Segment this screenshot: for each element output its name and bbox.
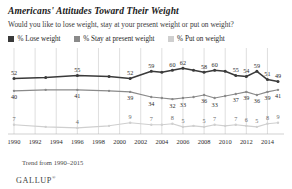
data-point bbox=[213, 124, 215, 126]
data-point bbox=[277, 80, 280, 83]
chart-plot-area: 5255525960625860555459514940413934323336… bbox=[8, 48, 284, 136]
data-point bbox=[213, 97, 215, 99]
data-point bbox=[129, 122, 131, 124]
data-point bbox=[13, 90, 15, 92]
legend-swatch-stay bbox=[74, 36, 80, 42]
data-point bbox=[13, 124, 15, 126]
data-label: 4 bbox=[76, 119, 79, 126]
legend-swatch-lose bbox=[8, 36, 14, 42]
data-label: 39 bbox=[243, 95, 249, 102]
data-point bbox=[277, 122, 279, 124]
data-point bbox=[182, 126, 184, 128]
data-label: 33 bbox=[180, 102, 186, 109]
x-tick-2006: 2006 bbox=[177, 138, 190, 145]
x-tick-2010: 2010 bbox=[219, 138, 232, 145]
trend-note: Trend from 1990–2015 bbox=[22, 159, 284, 166]
data-label: 9 bbox=[276, 114, 279, 121]
x-tick-2004: 2004 bbox=[155, 138, 168, 145]
data-label: 58 bbox=[201, 64, 207, 71]
registered-mark: ® bbox=[52, 175, 56, 180]
gallup-wordmark: GALLUP bbox=[16, 176, 52, 185]
x-tick-1996: 1996 bbox=[71, 138, 84, 145]
data-label: 52 bbox=[11, 70, 17, 77]
data-point bbox=[13, 77, 16, 80]
data-label: 7 bbox=[150, 116, 153, 123]
chart-card: Americans' Attitudes Toward Their Weight… bbox=[0, 0, 292, 189]
data-point bbox=[277, 89, 279, 91]
data-point bbox=[213, 69, 216, 72]
data-label: 34 bbox=[148, 101, 154, 108]
data-point bbox=[235, 93, 237, 95]
data-point bbox=[171, 69, 174, 72]
data-label: 5 bbox=[255, 118, 258, 125]
x-tick-2002: 2002 bbox=[134, 138, 147, 145]
data-point bbox=[255, 70, 258, 73]
x-tick-1994: 1994 bbox=[50, 138, 63, 145]
chart-legend: % Lose weight% Stay at present weight% P… bbox=[8, 35, 284, 43]
legend-item-lose: % Lose weight bbox=[8, 35, 61, 43]
data-point bbox=[192, 96, 194, 98]
data-label: 41 bbox=[275, 93, 281, 100]
data-point bbox=[76, 89, 78, 91]
data-label: 6 bbox=[245, 117, 248, 124]
legend-swatch-put bbox=[168, 36, 174, 42]
data-point bbox=[108, 75, 111, 78]
data-point bbox=[76, 74, 79, 77]
data-point bbox=[160, 71, 163, 74]
data-point bbox=[108, 90, 110, 92]
data-label: 33 bbox=[212, 102, 218, 109]
data-point bbox=[192, 69, 195, 72]
legend-label-stay: % Stay at present weight bbox=[83, 35, 154, 43]
x-tick-1992: 1992 bbox=[29, 138, 42, 145]
data-label: 54 bbox=[243, 68, 249, 75]
data-point bbox=[256, 126, 258, 128]
x-tick-2000: 2000 bbox=[113, 138, 126, 145]
legend-label-put: % Put on weight bbox=[177, 35, 225, 43]
data-label: 7 bbox=[234, 116, 237, 123]
legend-item-put: % Put on weight bbox=[168, 35, 225, 43]
data-label: 37 bbox=[233, 97, 239, 104]
data-point bbox=[129, 77, 132, 80]
chart-svg bbox=[8, 48, 284, 136]
data-point bbox=[203, 126, 205, 128]
data-label: 60 bbox=[169, 62, 175, 69]
x-tick-1998: 1998 bbox=[92, 138, 105, 145]
data-point bbox=[203, 71, 206, 74]
x-tick-1990: 1990 bbox=[8, 138, 21, 145]
data-point bbox=[245, 91, 247, 93]
data-point bbox=[256, 94, 258, 96]
page-title: Americans' Attitudes Toward Their Weight bbox=[8, 6, 284, 17]
data-point bbox=[44, 126, 46, 128]
data-point bbox=[108, 125, 110, 127]
data-label: 36 bbox=[254, 98, 260, 105]
data-point bbox=[76, 127, 78, 129]
data-point bbox=[224, 70, 227, 73]
chart-subtitle: Would you like to lose weight, stay at y… bbox=[8, 20, 284, 29]
data-point bbox=[150, 70, 153, 73]
series-line--put-on-weight bbox=[14, 123, 278, 128]
data-label: 55 bbox=[233, 67, 239, 74]
data-point bbox=[150, 96, 152, 98]
data-point bbox=[266, 78, 269, 81]
data-label: 5 bbox=[181, 118, 184, 125]
gallup-logo: GALLUP® bbox=[16, 175, 284, 185]
data-point bbox=[266, 123, 268, 125]
data-point bbox=[234, 74, 237, 77]
data-point bbox=[44, 76, 47, 79]
data-point bbox=[245, 125, 247, 127]
data-label: 9 bbox=[129, 114, 132, 121]
data-label: 49 bbox=[275, 73, 281, 80]
x-tick-2012: 2012 bbox=[240, 138, 253, 145]
data-label: 7 bbox=[213, 116, 216, 123]
data-label: 7 bbox=[12, 116, 15, 123]
data-label: 59 bbox=[254, 63, 260, 70]
data-point bbox=[161, 124, 163, 126]
data-label: 52 bbox=[127, 70, 133, 77]
data-label: 62 bbox=[180, 60, 186, 67]
data-point bbox=[44, 89, 46, 91]
data-label: 60 bbox=[212, 62, 218, 69]
legend-label-lose: % Lose weight bbox=[18, 35, 61, 43]
x-tick-2014: 2014 bbox=[261, 138, 274, 145]
data-point bbox=[266, 91, 268, 93]
data-label: 41 bbox=[74, 93, 80, 100]
